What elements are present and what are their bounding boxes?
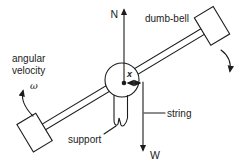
central-sphere [105, 63, 139, 97]
dumbbell-mass-upper [194, 7, 229, 46]
support-leader-line [104, 126, 116, 134]
support-stem [114, 96, 128, 126]
rotation-arrow-left [22, 91, 33, 116]
angular-velocity-label-line1: angular [12, 53, 46, 64]
rotation-arrow-right [221, 50, 230, 71]
dumbbell-label: dumb-bell [145, 13, 189, 24]
radius-x-label: x [126, 69, 133, 79]
north-label: N [110, 8, 118, 20]
diagram-canvas: N x W string support dumb-bell angular v… [0, 0, 242, 164]
physics-diagram: N x W string support dumb-bell angular v… [0, 0, 242, 164]
string-label: string [167, 108, 191, 119]
weight-label: W [150, 149, 160, 161]
dumbbell-mass-lower [17, 113, 52, 152]
angular-velocity-label-line2: velocity [12, 65, 45, 76]
support-label: support [68, 134, 102, 145]
omega-label: ω [30, 80, 38, 91]
